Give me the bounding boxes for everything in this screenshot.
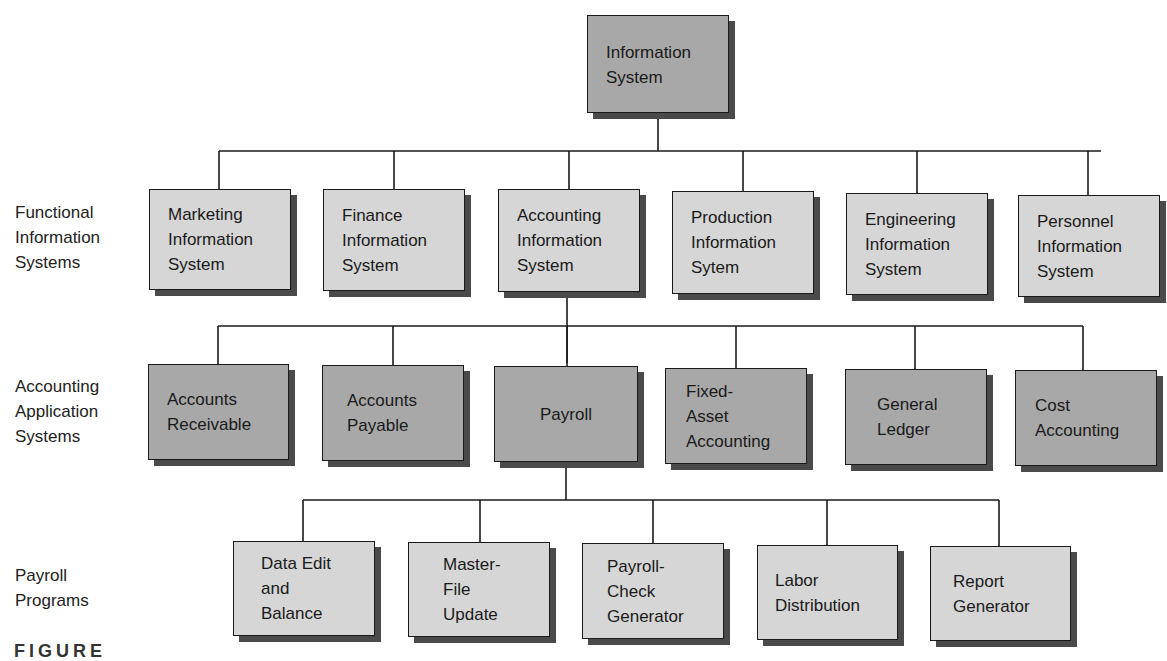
node-label-line: System	[342, 253, 464, 278]
node-accounting-information-system: Accounting Information System	[498, 189, 640, 292]
node-label-line: System	[517, 253, 639, 278]
row-label-line: Application	[15, 399, 99, 424]
row-label-line: Functional	[15, 200, 100, 225]
row-label-line: Payroll	[15, 563, 89, 588]
node-label-line: Information	[691, 230, 813, 255]
node-marketing-information-system: Marketing Information System	[149, 189, 291, 290]
node-report-generator: Report Generator	[930, 546, 1071, 641]
node-label-line: Sytem	[691, 255, 813, 280]
node-engineering-information-system: Engineering Information System	[846, 193, 988, 295]
node-label-line: Finance	[342, 203, 464, 228]
row-label-line: Systems	[15, 250, 100, 275]
node-label-line: System	[168, 252, 290, 277]
node-label-line: Information	[342, 228, 464, 253]
node-fixed-asset-accounting: Fixed- Asset Accounting	[665, 368, 807, 464]
node-label-line: General	[877, 392, 955, 417]
node-labor-distribution: Labor Distribution	[757, 545, 898, 640]
node-label-line: Information	[1037, 234, 1159, 259]
node-label-line: Information	[168, 227, 290, 252]
node-label-line: Accounting	[517, 203, 639, 228]
node-label-line: Receivable	[167, 412, 288, 437]
node-label-line: System	[865, 257, 987, 282]
node-data-edit-and-balance: Data Edit and Balance	[233, 541, 375, 636]
node-label-line: Asset	[686, 404, 806, 429]
node-label-line: Information	[865, 232, 987, 257]
row-label-line: Accounting	[15, 374, 99, 399]
node-payroll: Payroll	[494, 366, 638, 462]
row-label-accounting-applications: Accounting Application Systems	[15, 374, 99, 449]
row-label-line: Information	[15, 225, 100, 250]
node-label-line: System	[606, 65, 728, 90]
node-personnel-information-system: Personnel Information System	[1018, 195, 1160, 297]
node-label-line: System	[1037, 259, 1159, 284]
node-label-line: Payroll-	[607, 554, 723, 579]
node-label-line: Accounts	[347, 388, 439, 413]
node-label-line: Data Edit	[261, 551, 374, 576]
node-accounts-receivable: Accounts Receivable	[148, 364, 289, 460]
node-payroll-check-generator: Payroll- Check Generator	[582, 543, 724, 639]
node-master-file-update: Master- File Update	[408, 542, 550, 637]
node-label-line: Update	[443, 602, 549, 627]
figure-caption: FIGURE	[14, 641, 106, 661]
row-label-line: Systems	[15, 424, 99, 449]
node-label-line: Distribution	[775, 593, 897, 618]
node-label-line: Master-	[443, 552, 549, 577]
node-finance-information-system: Finance Information System	[323, 189, 465, 291]
node-label-line: File	[443, 577, 549, 602]
node-label-line: Personnel	[1037, 209, 1159, 234]
node-label-line: Accounts	[167, 387, 288, 412]
row-label-functional: Functional Information Systems	[15, 200, 100, 275]
node-label-line: and	[261, 576, 374, 601]
node-label-line: Generator	[607, 604, 723, 629]
node-label-line: Engineering	[865, 207, 987, 232]
node-label-line: Generator	[953, 594, 1070, 619]
node-production-information-system: Production Information Sytem	[672, 191, 814, 294]
node-label-line: Fixed-	[686, 379, 806, 404]
node-cost-accounting: Cost Accounting	[1015, 370, 1157, 466]
node-label-line: Balance	[261, 601, 374, 626]
node-label-line: Report	[953, 569, 1070, 594]
node-label-line: Production	[691, 205, 813, 230]
node-label-line: Accounting	[1035, 418, 1156, 443]
node-label-line: Payable	[347, 413, 439, 438]
node-general-ledger: General Ledger	[845, 369, 987, 465]
node-label-line: Cost	[1035, 393, 1156, 418]
node-accounts-payable: Accounts Payable	[322, 365, 464, 461]
node-label-line: Ledger	[877, 417, 955, 442]
node-label-line: Payroll	[540, 402, 592, 427]
node-label-line: Check	[607, 579, 723, 604]
node-label-line: Labor	[775, 568, 897, 593]
node-information-system: Information System	[587, 15, 729, 113]
node-label-line: Information	[606, 40, 728, 65]
row-label-line: Programs	[15, 588, 89, 613]
row-label-payroll-programs: Payroll Programs	[15, 563, 89, 613]
node-label-line: Accounting	[686, 429, 806, 454]
node-label-line: Marketing	[168, 202, 290, 227]
node-label-line: Information	[517, 228, 639, 253]
